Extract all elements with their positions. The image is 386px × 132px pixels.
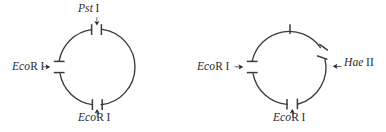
label-genus: Eco	[78, 111, 96, 123]
label-genus: Eco	[12, 60, 30, 72]
label-ecori-left-west: EcoRI	[12, 61, 44, 73]
label-hae-ii-right: HaeII	[344, 57, 374, 69]
label-genus: Pst	[78, 2, 93, 14]
label-genus: Eco	[273, 111, 291, 123]
plasmid-arc-east-bottom	[298, 59, 326, 104]
label-roman: R	[30, 60, 38, 72]
plasmid-arc-top-right	[252, 31, 320, 60]
label-numeral: I	[301, 111, 305, 123]
label-numeral: I	[40, 60, 44, 72]
tick-hae-b	[317, 56, 328, 60]
arrow-ecori-right-w	[235, 64, 244, 69]
plasmid-arc-right	[101, 29, 135, 104]
restriction-map-figure: PstI EcoRI EcoRI HaeII EcoRI EcoRI	[0, 0, 386, 132]
label-roman: R	[96, 111, 104, 123]
label-roman: R	[291, 111, 299, 123]
label-ecori-right-bottom: EcoRI	[273, 112, 305, 124]
label-genus: Eco	[197, 60, 215, 72]
plasmid-arc-upper-left	[59, 30, 91, 61]
label-ecori-left-bottom: EcoRI	[78, 112, 110, 124]
label-numeral: I	[96, 2, 100, 14]
label-pst-i-left: PstI	[78, 3, 99, 15]
arrow-pst-left	[94, 17, 99, 25]
label-numeral: II	[366, 56, 374, 68]
label-numeral: I	[106, 111, 110, 123]
plasmid-arc-bottom-left	[60, 74, 92, 105]
label-ecori-right-west: EcoRI	[197, 61, 229, 73]
plasmid-arc-bottom-west	[253, 74, 287, 105]
label-genus: Hae	[344, 56, 363, 68]
label-numeral: I	[225, 60, 229, 72]
label-roman: R	[215, 60, 223, 72]
arrow-hae-right	[333, 64, 342, 69]
